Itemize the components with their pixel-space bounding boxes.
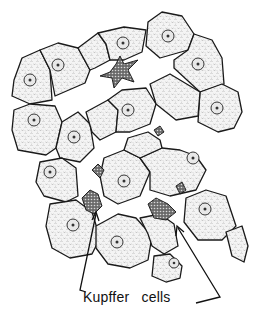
hepatocyte [152,254,182,282]
hepatocyte [36,158,78,202]
kupffer-cells-label: Kupffer cells [83,289,171,305]
kupffer-cell [154,126,164,136]
hepatocyte [12,104,62,155]
hepatocyte [226,226,248,262]
liver-cells-illustration [0,0,257,319]
